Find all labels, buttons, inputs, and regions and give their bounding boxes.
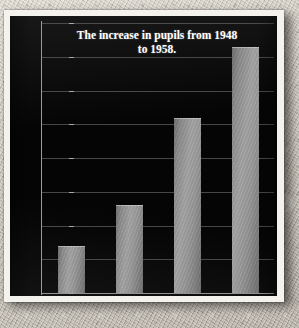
bar-year-1956 <box>174 118 201 294</box>
gridline-80 <box>42 23 274 24</box>
y-tick-mark-60 <box>69 91 74 92</box>
y-tick-mark-50 <box>69 124 74 125</box>
chart-photo-card: The increase in pupils from 1948 to 1958… <box>4 10 284 302</box>
plot-area: 01020304050607080Year 1948Year 1952Year … <box>42 23 274 293</box>
y-tick-mark-20 <box>69 226 74 227</box>
y-tick-mark-30 <box>69 192 74 193</box>
y-tick-mark-70 <box>69 57 74 58</box>
chart-plot-canvas: The increase in pupils from 1948 to 1958… <box>10 16 277 296</box>
bar-year-1952 <box>116 205 143 293</box>
y-tick-mark-0 <box>69 293 74 294</box>
y-tick-mark-40 <box>69 158 74 159</box>
gridline-0 <box>42 293 274 294</box>
y-tick-mark-80 <box>69 23 74 24</box>
screenshot-page: The increase in pupils from 1948 to 1958… <box>0 0 299 328</box>
bar-year-1948 <box>58 246 85 293</box>
bar-year-1958 <box>232 47 259 293</box>
